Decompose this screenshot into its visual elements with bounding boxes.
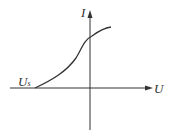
us-label-subscript: s xyxy=(27,79,30,88)
y-axis-arrow-icon xyxy=(88,10,93,18)
iu-graph xyxy=(0,0,172,139)
x-axis-label: U xyxy=(154,81,163,97)
iu-curve xyxy=(35,27,111,88)
y-axis-label: I xyxy=(81,5,85,21)
x-axis-arrow-icon xyxy=(145,86,153,91)
us-label: Us xyxy=(18,74,31,90)
us-label-main: U xyxy=(18,74,27,89)
